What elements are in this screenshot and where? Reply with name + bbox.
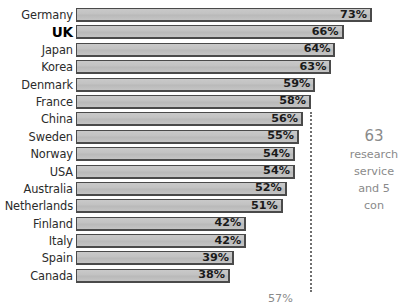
bar-track: 42%: [76, 233, 385, 250]
category-label: Italy: [0, 236, 76, 247]
bar: 73%: [76, 8, 372, 22]
table-row: Italy42%: [0, 233, 385, 250]
bar: 56%: [76, 112, 303, 126]
bar-value-label: 54%: [263, 165, 290, 176]
bar: 64%: [76, 43, 335, 57]
category-label: Korea: [0, 62, 76, 73]
bar-value-label: 52%: [255, 183, 282, 194]
table-row: UK66%: [0, 24, 385, 41]
category-label: Norway: [0, 149, 76, 160]
category-label: UK: [0, 26, 76, 40]
bar: 42%: [76, 217, 246, 231]
table-row: Denmark59%: [0, 77, 385, 94]
bar-track: 38%: [76, 268, 385, 285]
bar: 63%: [76, 60, 331, 74]
bar-value-label: 38%: [198, 270, 225, 281]
bar: 66%: [76, 25, 344, 39]
bar-value-label: 59%: [283, 78, 310, 89]
side-note-line-3: service: [354, 165, 394, 178]
bar-value-label: 73%: [340, 9, 367, 20]
bar: 52%: [76, 182, 287, 196]
side-note-line-4: and 5: [358, 182, 390, 195]
reference-dotted-line: [310, 112, 312, 292]
bar-value-label: 39%: [202, 252, 229, 263]
bar: 38%: [76, 269, 230, 283]
bar-track: 64%: [76, 42, 385, 59]
bar-track: 58%: [76, 94, 385, 111]
bar-value-label: 66%: [312, 26, 339, 37]
category-label: Canada: [0, 271, 76, 282]
bar-track: 66%: [76, 24, 385, 41]
table-row: Korea63%: [0, 59, 385, 76]
category-label: Finland: [0, 219, 76, 230]
table-row: Finland42%: [0, 216, 385, 233]
bar: 42%: [76, 234, 246, 248]
bar-value-label: 58%: [279, 96, 306, 107]
side-note-line-1: 63: [318, 126, 402, 146]
bar: 54%: [76, 165, 295, 179]
bar: 39%: [76, 251, 234, 265]
category-label: Japan: [0, 45, 76, 56]
bar: 58%: [76, 95, 311, 109]
bar-value-label: 42%: [214, 235, 241, 246]
bar-value-label: 63%: [300, 61, 327, 72]
bar: 55%: [76, 130, 299, 144]
bar-value-label: 51%: [251, 200, 278, 211]
bar-track: 73%: [76, 7, 385, 24]
bar-track: 42%: [76, 216, 385, 233]
category-label: Spain: [0, 253, 76, 264]
bar: 59%: [76, 78, 315, 92]
table-row: Japan64%: [0, 42, 385, 59]
table-row: Canada38%: [0, 268, 385, 285]
bar-value-label: 64%: [304, 44, 331, 55]
table-row: France58%: [0, 94, 385, 111]
category-label: Germany: [0, 10, 76, 21]
bottom-note-text: 57%: [268, 292, 293, 305]
table-row: Germany73%: [0, 7, 385, 24]
side-note-line-2: research: [350, 148, 398, 161]
category-label: China: [0, 114, 76, 125]
category-label: Sweden: [0, 132, 76, 143]
bar-value-label: 54%: [263, 148, 290, 159]
bar-track: 59%: [76, 77, 385, 94]
table-row: Spain39%: [0, 250, 385, 267]
side-note-line-5: con: [364, 199, 384, 212]
category-label: Australia: [0, 184, 76, 195]
bar: 54%: [76, 147, 295, 161]
category-label: Denmark: [0, 80, 76, 91]
bar-value-label: 55%: [267, 131, 294, 142]
bar-value-label: 42%: [214, 218, 241, 229]
bar: 51%: [76, 199, 283, 213]
bar-track: 63%: [76, 59, 385, 76]
bar-track: 39%: [76, 250, 385, 267]
category-label: Netherlands: [0, 201, 76, 212]
category-label: USA: [0, 167, 76, 178]
side-note-text: 63 research service and 5 con: [318, 126, 402, 214]
bar-value-label: 56%: [271, 113, 298, 124]
category-label: France: [0, 97, 76, 108]
